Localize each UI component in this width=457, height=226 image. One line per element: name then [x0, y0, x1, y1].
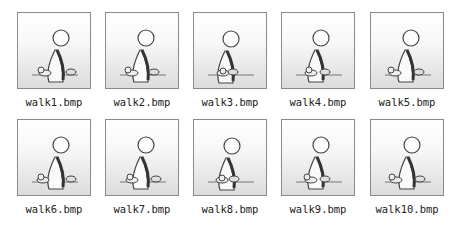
thumbnail[interactable] — [370, 119, 444, 196]
file-name: walk7.bmp — [95, 203, 189, 215]
file-name: walk3.bmp — [183, 96, 277, 108]
walking-figure-frame-10-icon — [371, 120, 443, 195]
file-item[interactable]: walk2.bmp — [105, 12, 179, 89]
file-item[interactable]: walk4.bmp — [281, 12, 355, 89]
thumbnail[interactable] — [370, 12, 444, 89]
walking-figure-frame-3-icon — [194, 13, 266, 88]
thumbnail[interactable] — [17, 12, 91, 89]
file-name: walk1.bmp — [7, 96, 101, 108]
walking-figure-frame-9-icon — [282, 120, 354, 195]
thumbnail[interactable] — [105, 119, 179, 196]
thumbnail[interactable] — [281, 119, 355, 196]
file-name: walk4.bmp — [271, 96, 365, 108]
walking-figure-frame-8-icon — [194, 120, 266, 195]
file-name: walk8.bmp — [183, 203, 277, 215]
file-name: walk6.bmp — [7, 203, 101, 215]
walking-figure-frame-6-icon — [18, 120, 90, 195]
file-item[interactable]: walk7.bmp — [105, 119, 179, 196]
walking-figure-frame-5-icon — [371, 13, 443, 88]
file-name: walk2.bmp — [95, 96, 189, 108]
walking-figure-frame-4-icon — [282, 13, 354, 88]
file-name: walk10.bmp — [360, 203, 454, 215]
file-item[interactable]: walk5.bmp — [370, 12, 444, 89]
file-item[interactable]: walk8.bmp — [193, 119, 267, 196]
file-item[interactable]: walk3.bmp — [193, 12, 267, 89]
thumbnail[interactable] — [193, 119, 267, 196]
file-name: walk5.bmp — [360, 96, 454, 108]
file-item[interactable]: walk9.bmp — [281, 119, 355, 196]
walking-figure-frame-2-icon — [106, 13, 178, 88]
thumbnail[interactable] — [105, 12, 179, 89]
thumbnail[interactable] — [281, 12, 355, 89]
thumbnail[interactable] — [193, 12, 267, 89]
file-item[interactable]: walk6.bmp — [17, 119, 91, 196]
walking-figure-frame-1-icon — [18, 13, 90, 88]
file-item[interactable]: walk10.bmp — [370, 119, 444, 196]
file-item[interactable]: walk1.bmp — [17, 12, 91, 89]
walking-figure-frame-7-icon — [106, 120, 178, 195]
thumbnail[interactable] — [17, 119, 91, 196]
file-name: walk9.bmp — [271, 203, 365, 215]
